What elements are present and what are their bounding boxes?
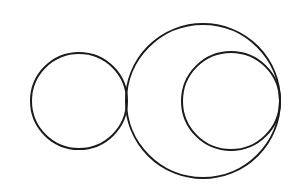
circles-diagram: [0, 0, 298, 192]
background: [0, 0, 298, 192]
